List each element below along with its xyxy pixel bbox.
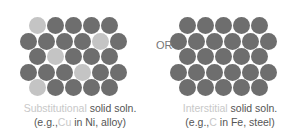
caption-line-1: Interstitial solid soln. (168, 101, 292, 115)
caption-text: in Ni, alloy) (71, 116, 126, 128)
caption-text: solid soln. (87, 102, 137, 114)
interstitial-term: Interstitial (183, 102, 228, 114)
host-atom (110, 33, 127, 50)
host-atom (83, 17, 100, 34)
host-atom (101, 48, 118, 65)
host-atom (83, 79, 100, 96)
substitutional-term: Substitutional (24, 102, 87, 114)
caption-text: (e.g., (34, 116, 58, 128)
solute-element: Cu (58, 116, 71, 128)
or-label: OR (156, 39, 173, 51)
host-atom (65, 17, 82, 34)
host-atom (260, 64, 277, 81)
substitutional-caption: Substitutional solid soln. (e.g.,Cu in N… (18, 101, 142, 129)
caption-text: (e.g., (185, 116, 209, 128)
host-atom (233, 17, 250, 34)
host-atom (47, 79, 64, 96)
host-atom (251, 79, 268, 96)
caption-line-1: Substitutional solid soln. (18, 101, 142, 115)
host-atom (179, 17, 196, 34)
caption-text: solid soln. (228, 102, 278, 114)
solute-element: C (209, 116, 217, 128)
host-atom (65, 48, 82, 65)
host-atom (251, 48, 268, 65)
host-atom (47, 17, 64, 34)
host-atom (233, 48, 250, 65)
host-atom (215, 79, 232, 96)
caption-line-2: (e.g.,C in Fe, steel) (168, 115, 292, 129)
host-atom (101, 17, 118, 34)
caption-text: in Fe, steel) (217, 116, 275, 128)
host-atom (101, 79, 118, 96)
host-atom (233, 79, 250, 96)
host-atom (179, 48, 196, 65)
host-atom (197, 17, 214, 34)
host-atom (65, 79, 82, 96)
caption-line-2: (e.g.,Cu in Ni, alloy) (18, 115, 142, 129)
solute-atom (29, 17, 46, 34)
host-atom (110, 64, 127, 81)
solute-atom (29, 79, 46, 96)
host-atom (260, 33, 277, 50)
interstitial-caption: Interstitial solid soln. (e.g.,C in Fe, … (168, 101, 292, 129)
host-atom (251, 17, 268, 34)
host-atom (215, 48, 232, 65)
host-atom (197, 48, 214, 65)
host-atom (83, 48, 100, 65)
host-atom (215, 17, 232, 34)
solute-atom (47, 48, 64, 65)
host-atom (179, 79, 196, 96)
host-atom (29, 48, 46, 65)
host-atom (197, 79, 214, 96)
